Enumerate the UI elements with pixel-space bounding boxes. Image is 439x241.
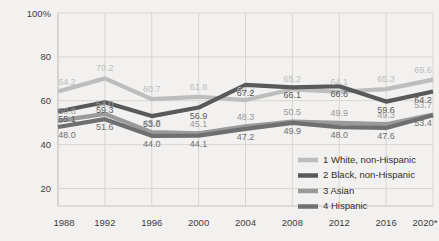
data-point-label: 66.6 bbox=[330, 89, 348, 99]
data-point-label: 49.9 bbox=[284, 126, 302, 136]
data-point-label: 65.2 bbox=[284, 74, 302, 84]
data-point-label: 48.0 bbox=[58, 130, 76, 140]
data-point-label: 44.1 bbox=[190, 139, 208, 149]
x-axis-tick-label: 2016 bbox=[376, 217, 397, 228]
data-point-label: 45.1 bbox=[190, 119, 208, 129]
legend-item-label: 2 Black, non-Hispanic bbox=[323, 169, 415, 180]
data-point-label: 45.7 bbox=[143, 118, 161, 128]
data-point-label: 54.0 bbox=[96, 99, 114, 109]
x-axis-tick-label: 2004 bbox=[235, 217, 256, 228]
data-point-label: 70.2 bbox=[96, 63, 114, 73]
legend-item-label: 1 White, non-Hispanic bbox=[323, 154, 416, 165]
data-point-label: 60.7 bbox=[143, 84, 161, 94]
data-point-label: 61.8 bbox=[190, 82, 208, 92]
data-point-label: 65.3 bbox=[377, 74, 395, 84]
x-axis-tick-label: 2008 bbox=[282, 217, 303, 228]
line-chart: 100%806040201988199219962000200420082012… bbox=[0, 0, 439, 241]
data-point-label: 53.4 bbox=[414, 118, 432, 128]
x-axis-tick-label: 2012 bbox=[329, 217, 350, 228]
x-axis-tick-label: 2000 bbox=[188, 217, 209, 228]
data-point-label: 51.6 bbox=[96, 122, 114, 132]
data-point-label: 47.2 bbox=[237, 132, 255, 142]
data-point-label: 49.3 bbox=[377, 110, 395, 120]
data-point-label: 44.0 bbox=[143, 139, 161, 149]
y-axis-tick-label: 20 bbox=[40, 183, 51, 194]
data-point-label: 67.2 bbox=[237, 88, 255, 98]
y-axis-tick-label: 80 bbox=[40, 51, 51, 62]
data-point-label: 48.3 bbox=[237, 112, 255, 122]
y-axis-tick-label: 60 bbox=[40, 95, 51, 106]
legend-item-label: 4 Hispanic bbox=[323, 200, 368, 211]
x-axis-tick-label: 2020* bbox=[413, 217, 438, 228]
x-axis-tick-label: 1988 bbox=[53, 217, 74, 228]
data-point-label: 64.1 bbox=[330, 77, 348, 87]
data-point-label: 53.7 bbox=[414, 100, 432, 110]
data-point-label: 66.1 bbox=[284, 90, 302, 100]
data-point-label: 47.6 bbox=[377, 131, 395, 141]
data-point-label: 48.0 bbox=[330, 130, 348, 140]
data-point-label: 50.5 bbox=[284, 107, 302, 117]
data-point-label: 69.6 bbox=[414, 65, 432, 75]
chart-canvas: 100%806040201988199219962000200420082012… bbox=[0, 0, 439, 241]
y-axis-tick-label: 100% bbox=[27, 8, 52, 19]
y-axis-tick-label: 40 bbox=[40, 139, 51, 150]
data-point-label: 50.8 bbox=[58, 106, 76, 116]
data-point-label: 49.9 bbox=[330, 108, 348, 118]
x-axis-tick-label: 1992 bbox=[94, 217, 115, 228]
legend-item-label: 3 Asian bbox=[323, 185, 354, 196]
data-point-label: 64.2 bbox=[58, 77, 76, 87]
x-axis-tick-label: 1996 bbox=[141, 217, 162, 228]
